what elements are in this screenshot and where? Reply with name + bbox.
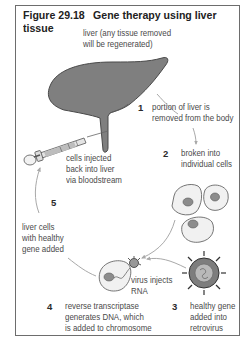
- label-step2-line2: individual cells: [181, 159, 232, 170]
- label-step4-line1: reverse transcriptase: [65, 301, 152, 312]
- step-number-2: 2: [163, 148, 168, 159]
- label-step3: healthy gene added into retrovirus: [190, 301, 235, 334]
- step-number-1: 1: [138, 102, 143, 113]
- label-step3-line3: retrovirus: [190, 323, 235, 334]
- step-number-3: 3: [172, 301, 177, 312]
- label-step1-line1: portion of liver is: [152, 102, 233, 113]
- label-liver-line2: will be regenerated): [83, 39, 171, 50]
- label-virus-injects: virus injects RNA: [131, 275, 172, 297]
- label-step2: broken into individual cells: [181, 148, 232, 170]
- label-liver-line1: liver (any tissue removed: [83, 28, 171, 39]
- label-step3-line2: added into: [190, 312, 235, 323]
- label-injected-line2: back into liver: [66, 164, 122, 175]
- arrow-cells-to-infection: [142, 220, 175, 258]
- label-virus-injects-line1: virus injects: [131, 275, 172, 286]
- liver-icon: [48, 57, 167, 152]
- label-step5: liver cells with healthy gene added: [22, 222, 64, 255]
- diagram-illustration: [0, 0, 250, 344]
- label-step5-line3: gene added: [22, 244, 64, 255]
- arrow-virus-to-cell: [147, 258, 186, 268]
- step-number-4: 4: [47, 301, 52, 312]
- label-step1: portion of liver is removed from the bod…: [152, 102, 233, 124]
- step-number-5: 5: [51, 197, 56, 208]
- label-step4-line3: is added to chromosome: [65, 323, 152, 334]
- label-injected-line1: cells injected: [66, 153, 122, 164]
- label-step3-line1: healthy gene: [190, 301, 235, 312]
- retrovirus-icon: [182, 251, 226, 295]
- label-injected: cells injected back into liver via blood…: [66, 153, 122, 186]
- pointer-line-step5: [68, 258, 96, 276]
- label-injected-line3: via bloodstream: [66, 175, 122, 186]
- label-step4: reverse transcriptase generates DNA, whi…: [65, 301, 152, 334]
- liver-cells-icon: [172, 184, 228, 242]
- label-liver: liver (any tissue removed will be regene…: [83, 28, 171, 50]
- label-step2-line1: broken into: [181, 148, 232, 159]
- label-step4-line2: generates DNA, which: [65, 312, 152, 323]
- label-step1-line2: removed from the body: [152, 113, 233, 124]
- label-virus-injects-line2: RNA: [131, 286, 172, 297]
- arrow-step1-to-2: [193, 128, 196, 144]
- arrow-step5-to-syringe: [35, 168, 40, 213]
- label-step5-line1: liver cells: [22, 222, 64, 233]
- label-step5-line2: with healthy: [22, 233, 64, 244]
